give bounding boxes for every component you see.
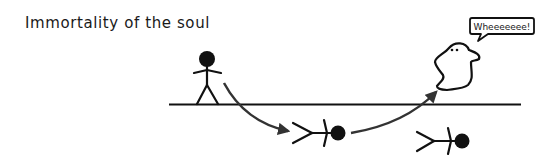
figure-head (199, 51, 215, 67)
fallen-stick-figure-2 (417, 128, 470, 154)
figure-head (331, 126, 346, 141)
arrow-up (351, 92, 436, 133)
speech-bubble-text: Wheeeeeee! (474, 22, 531, 32)
standing-stick-figure (194, 51, 221, 104)
ghost (435, 43, 479, 90)
figure-head (455, 134, 470, 149)
ghost-eye-right (456, 49, 459, 52)
speech-bubble: Wheeeeeee! (470, 18, 534, 41)
diagram-canvas: Wheeeeeee! (0, 0, 558, 165)
fallen-stick-figure (293, 120, 346, 146)
ghost-eye-left (451, 49, 454, 52)
arrow-down (224, 83, 288, 131)
